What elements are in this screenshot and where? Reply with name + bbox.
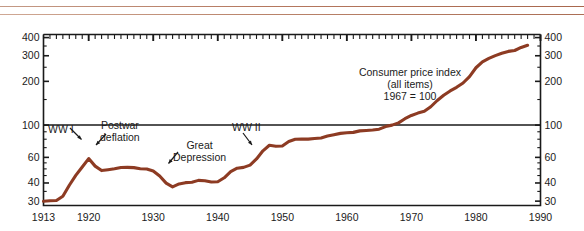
cpi-chart-figure: 400 300 200 100 60 40 30 400 300 200 100…: [0, 0, 584, 231]
annotation-postwar-deflation-line1: Postwar: [100, 119, 140, 131]
y-axis-left-label-200: 200: [0, 76, 40, 87]
annotation-postwar-deflation-line2: deflation: [100, 131, 140, 143]
left-axis-ticks: [44, 38, 50, 202]
x-axis-label-1960: 1960: [324, 212, 370, 223]
annotation-ww2: WW II: [232, 121, 261, 133]
y-axis-left-label-400: 400: [0, 32, 40, 43]
chart-base-note: 1967 = 100: [340, 90, 480, 102]
y-axis-left-label-300: 300: [0, 50, 40, 61]
annotation-ww1: WW I: [48, 123, 74, 135]
chart-title: Consumer price index: [340, 66, 480, 78]
y-axis-right-label-200: 200: [545, 76, 563, 87]
x-axis-label-1950: 1950: [259, 212, 305, 223]
y-axis-right-label-30: 30: [545, 196, 557, 207]
x-axis-label-1940: 1940: [195, 212, 241, 223]
x-axis-label-1913: 1913: [21, 212, 67, 223]
x-axis-label-1990: 1990: [518, 212, 564, 223]
x-axis-label-1930: 1930: [130, 212, 176, 223]
y-axis-left-label-30: 30: [0, 196, 40, 207]
y-axis-right-label-40: 40: [545, 177, 557, 188]
annotation-great-depression: Great Depression: [173, 139, 226, 163]
y-axis-left-label-40: 40: [0, 177, 40, 188]
right-axis-ticks: [535, 38, 541, 202]
top-axis-ticks: [44, 35, 541, 42]
x-axis-label-1970: 1970: [388, 212, 434, 223]
y-axis-right-label-60: 60: [545, 152, 557, 163]
y-axis-left-label-100: 100: [0, 120, 40, 131]
x-axis-label-1980: 1980: [453, 212, 499, 223]
annotation-great-depression-line1: Great: [173, 139, 226, 151]
chart-plot-area: [0, 0, 584, 231]
y-axis-right-label-100: 100: [545, 120, 563, 131]
chart-subtitle: (all items): [340, 78, 480, 90]
x-axis-label-1920: 1920: [66, 212, 112, 223]
y-axis-left-label-60: 60: [0, 152, 40, 163]
y-axis-right-label-300: 300: [545, 50, 563, 61]
chart-title-block: Consumer price index (all items) 1967 = …: [340, 66, 480, 102]
annotation-great-depression-line2: Depression: [173, 151, 226, 163]
y-axis-right-label-400: 400: [545, 32, 563, 43]
annotation-postwar-deflation: Postwar deflation: [100, 119, 140, 143]
